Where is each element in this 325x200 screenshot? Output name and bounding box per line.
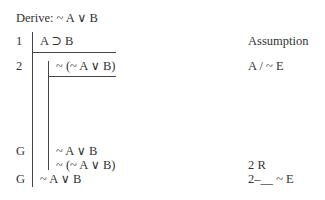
formula: A ⊃ B bbox=[40, 34, 73, 48]
inner-scope-line bbox=[48, 61, 49, 170]
line-number: G bbox=[16, 172, 25, 186]
justification: 2 R bbox=[248, 158, 266, 172]
formula: ~ (~ A ∨ B) bbox=[56, 158, 116, 172]
derive-goal: Derive: ~ A ∨ B bbox=[16, 11, 98, 25]
formula: ~ (~ A ∨ B) bbox=[56, 59, 116, 73]
outer-assumption-bar bbox=[32, 52, 116, 53]
justification: 2–__ ~ E bbox=[248, 172, 294, 186]
justification: A / ~ E bbox=[248, 59, 284, 73]
line-number: 1 bbox=[16, 34, 22, 48]
formula: ~ A ∨ B bbox=[56, 144, 97, 158]
outer-scope-line bbox=[32, 32, 33, 187]
line-number: 2 bbox=[16, 59, 22, 73]
formula: ~ A ∨ B bbox=[40, 172, 81, 186]
justification: Assumption bbox=[248, 34, 308, 48]
line-number: G bbox=[16, 144, 25, 158]
inner-assumption-bar bbox=[48, 76, 116, 77]
